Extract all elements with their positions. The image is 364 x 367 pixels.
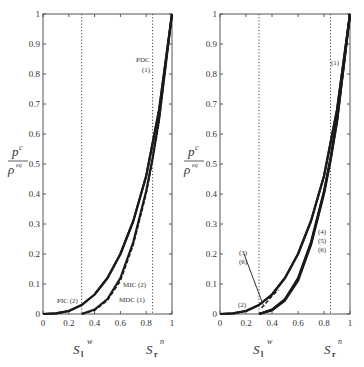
svg-text:c: c [195,143,199,152]
right-y-axis-label: p c ρ eq [183,143,204,177]
label-5: (5) [318,237,327,245]
svg-text:p: p [11,144,19,159]
right-panel: 00.10.20.30.40.50.60.70.80.91 00.20.40.6… [183,9,352,359]
left-y-axis-label: p c ρ eq [7,143,28,177]
label-1: (1) [331,59,340,67]
label-pdc: PDC [136,56,150,64]
x-tick-label: 1 [348,318,353,328]
x-tick-label: 0 [41,318,46,328]
x-tick-label: 0 [218,318,223,328]
svg-text:n: n [160,337,164,346]
x-tick-label: 0.2 [63,318,74,328]
svg-text:r: r [332,350,336,359]
y-tick-label: 0.9 [29,39,41,49]
svg-text:r: r [154,350,158,359]
svg-text:eq: eq [192,162,198,168]
left-sr-label: S r n [146,337,164,359]
label-2: (2) [238,301,247,309]
label-6: (6) [318,246,327,254]
y-tick-label: 0.3 [206,219,218,229]
y-tick-label: 0.7 [29,99,41,109]
y-tick-label: 1 [213,9,218,19]
label-3: (3) [239,249,248,257]
y-tick-label: 0.2 [29,249,40,259]
svg-text:S: S [146,342,153,357]
y-tick-label: 0.5 [206,159,218,169]
label-pdc-num: (1) [142,66,151,74]
svg-text:ρ: ρ [7,162,14,177]
y-tick-label: 0.1 [206,279,217,289]
curve-mic-2- [82,14,172,314]
y-tick-label: 0.8 [29,69,41,79]
y-tick-label: 0.3 [29,219,41,229]
y-tick-label: 0.8 [206,69,218,79]
svg-text:S: S [253,342,260,357]
svg-text:p: p [187,144,195,159]
label-6a: (6) [239,258,248,266]
figure: 00.10.20.30.40.50.60.70.80.91 00.20.40.6… [0,0,364,367]
curve-mdc-1- [82,14,172,314]
label-mic: MIC (2) [123,281,147,289]
y-tick-label: 0.7 [206,99,218,109]
x-tick-label: 0.4 [89,318,101,328]
x-tick-label: 0.8 [141,318,153,328]
y-tick-label: 0.1 [29,279,40,289]
y-tick-label: 0.4 [206,189,218,199]
svg-text:w: w [267,337,273,346]
y-tick-label: 0.5 [29,159,41,169]
svg-text:c: c [19,143,23,152]
x-tick-label: 0.2 [240,318,251,328]
right-sr-label: S r n [324,337,342,359]
svg-text:w: w [87,337,93,346]
svg-text:S: S [73,342,80,357]
svg-text:n: n [338,337,342,346]
svg-text:l: l [261,350,264,359]
y-tick-label: 0.6 [29,129,41,139]
right-sl-label: S l w [253,337,273,359]
x-tick-label: 1 [170,318,175,328]
y-tick-label: 0.2 [206,249,217,259]
y-tick-label: 1 [36,9,41,19]
label-pic: PIC (2) [57,297,78,305]
x-tick-label: 0.6 [115,318,127,328]
svg-text:ρ: ρ [183,162,190,177]
label-4: (4) [318,228,327,236]
svg-text:eq: eq [16,162,22,168]
label-mdc: MDC (1) [119,296,146,304]
left-sl-label: S l w [73,337,93,359]
svg-text:l: l [81,350,84,359]
y-tick-label: 0.4 [29,189,41,199]
x-tick-label: 0.6 [292,318,304,328]
svg-text:S: S [324,342,331,357]
y-tick-label: 0.9 [206,39,218,49]
y-tick-label: 0.6 [206,129,218,139]
left-panel: 00.10.20.30.40.50.60.70.80.91 00.20.40.6… [7,9,174,359]
left-x-ticks: 00.20.40.60.81 [41,14,175,328]
y-tick-label: 0 [213,309,218,319]
x-tick-label: 0.4 [266,318,278,328]
x-tick-label: 0.8 [318,318,330,328]
y-tick-label: 0 [36,309,41,319]
